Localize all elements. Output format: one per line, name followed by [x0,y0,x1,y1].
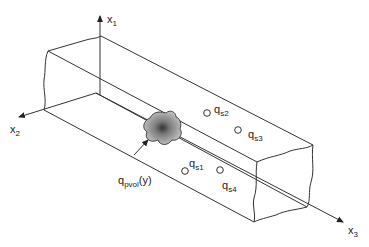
point-source-qs2 [204,110,211,117]
qs1-label: qs1 [189,158,204,172]
point-source-qs4 [217,167,224,174]
volume-source-blob [144,111,182,144]
x1-axis-label: x1 [107,14,117,28]
volume-source-label: qpvol(y) [118,175,152,189]
front-face-right [307,145,313,207]
bar-diagram: x1 x2 x3 qs2 qs3 qs1 qs4 qpvol(y) [0,0,369,247]
x3-axis-label: x3 [348,225,358,239]
bottom-far-edge [96,93,307,207]
x2-axis-label: x2 [10,124,20,138]
qs4-label: qs4 [222,180,237,194]
diagram-drawing [0,0,369,247]
point-source-qs3 [235,127,242,134]
x2-axis [19,93,96,117]
qs3-label: qs3 [248,129,263,143]
top-far-edge [101,36,313,145]
qs2-label: qs2 [214,104,229,118]
back-face-left-edge [44,51,48,110]
front-face-top [257,145,313,162]
front-face-bottom [254,207,307,222]
point-source-qs1 [182,168,189,175]
volume-source-pointer [134,140,148,155]
back-face-edge [48,36,101,51]
front-face-left [253,162,257,222]
